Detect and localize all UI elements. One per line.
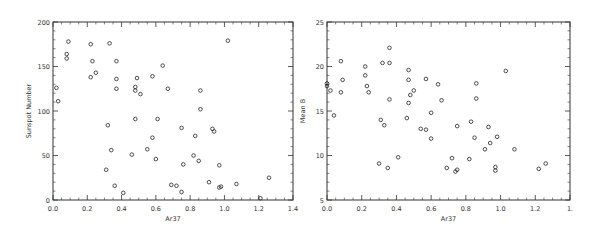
data-point-marker (89, 75, 93, 79)
data-point-marker (65, 57, 69, 61)
x-tick-label: 0.4 (116, 205, 126, 213)
data-point-marker (424, 77, 428, 81)
data-point-marker (388, 46, 392, 50)
data-point-marker (235, 182, 239, 186)
data-point-marker (166, 87, 170, 91)
data-point-marker (412, 89, 416, 93)
x-tick-label: 0.0 (48, 205, 58, 213)
data-point-marker (180, 190, 184, 194)
data-point-marker (382, 123, 386, 127)
data-point-marker (91, 59, 95, 63)
data-point-marker (474, 97, 478, 101)
data-point-marker (108, 42, 112, 46)
data-point-marker (133, 89, 137, 93)
y-tick-label: 0 (46, 197, 50, 205)
data-point-marker (494, 165, 498, 169)
x-tick-label: 1.2 (530, 205, 540, 213)
data-point-marker (115, 59, 119, 63)
data-point-marker (429, 137, 433, 141)
x-axis-label: Ar37 (441, 215, 456, 223)
x-tick-label: 1.2 (254, 205, 264, 213)
data-point-marker (407, 68, 411, 72)
data-point-marker (388, 61, 392, 65)
data-point-marker (106, 123, 110, 127)
data-point-marker (130, 153, 134, 157)
data-point-marker (56, 99, 60, 103)
data-point-marker (544, 162, 548, 166)
data-point-marker (192, 154, 196, 158)
data-point-marker (139, 92, 143, 96)
figure-canvas: 0.00.20.40.60.81.01.21.4050100150200Ar37… (0, 0, 593, 236)
data-point-marker (445, 166, 449, 170)
data-point-marker (407, 101, 411, 105)
x-axis-label: Ar37 (165, 215, 180, 223)
data-point-marker (473, 136, 477, 140)
data-point-marker (341, 78, 345, 82)
y-tick-label: 25 (316, 19, 324, 27)
x-tick-label: 1. (567, 205, 573, 213)
data-point-marker (55, 86, 59, 90)
data-point-marker (487, 125, 491, 129)
data-point-marker (175, 184, 179, 188)
data-point-marker (267, 176, 271, 180)
data-point-marker (468, 157, 472, 161)
data-point-marker (469, 120, 473, 124)
y-tick-label: 15 (316, 108, 324, 116)
data-point-marker (339, 91, 343, 95)
x-tick-label: 0.6 (426, 205, 436, 213)
x-tick-label: 0.0 (322, 205, 332, 213)
data-point-marker (488, 141, 492, 145)
data-point-marker (379, 118, 383, 122)
y-tick-label: 200 (38, 19, 50, 27)
data-point-marker (113, 184, 117, 188)
data-point-marker (367, 91, 371, 95)
data-point-marker (67, 40, 71, 44)
data-point-marker (407, 78, 411, 82)
data-point-marker (217, 163, 221, 167)
data-point-marker (133, 117, 137, 121)
y-axis-label: Sunspot Number (25, 83, 33, 138)
data-point-marker (332, 114, 336, 118)
data-point-marker (455, 124, 459, 128)
data-point-marker (161, 64, 165, 68)
data-point-marker (89, 42, 93, 46)
data-point-marker (474, 82, 478, 86)
data-point-marker (133, 85, 137, 89)
data-point-marker (121, 191, 125, 195)
data-point-marker (339, 59, 343, 63)
data-point-marker (419, 127, 423, 131)
x-tick-label: 1.4 (288, 205, 298, 213)
data-point-marker (386, 166, 390, 170)
data-point-marker (388, 98, 392, 102)
data-point-marker (115, 77, 119, 81)
x-tick-label: 0.8 (461, 205, 471, 213)
data-point-marker (504, 69, 508, 73)
data-point-marker (405, 116, 409, 120)
data-point-marker (94, 71, 98, 75)
scatter-plot-sunspot-number: 0.00.20.40.60.81.01.21.4050100150200Ar37… (25, 19, 298, 224)
data-point-marker (193, 134, 197, 138)
data-point-marker (483, 147, 487, 151)
x-tick-label: 0.4 (391, 205, 401, 213)
data-point-marker (450, 156, 454, 160)
scatter-plot-mean-b: 0.00.20.40.60.81.01.21.510152025Ar37Mean… (299, 19, 573, 224)
data-point-marker (436, 83, 440, 87)
data-point-marker (212, 130, 216, 134)
data-point-marker (115, 87, 119, 91)
data-point-marker (109, 148, 113, 152)
data-point-marker (494, 169, 498, 173)
data-point-marker (495, 135, 499, 139)
data-point-marker (440, 99, 444, 103)
data-point-marker (429, 111, 433, 115)
data-point-marker (537, 167, 541, 171)
x-tick-label: 0.6 (151, 205, 161, 213)
data-point-marker (181, 163, 185, 167)
data-point-marker (396, 155, 400, 159)
data-point-marker (145, 147, 149, 151)
data-point-marker (169, 183, 173, 187)
data-point-marker (259, 196, 263, 200)
y-tick-label: 150 (38, 63, 50, 71)
x-tick-label: 0.2 (357, 205, 367, 213)
data-point-marker (409, 93, 413, 97)
x-tick-label: 0.2 (82, 205, 92, 213)
